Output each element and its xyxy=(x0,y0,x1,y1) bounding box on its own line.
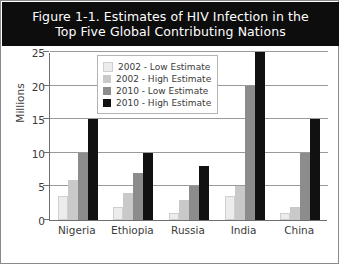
y-axis-tick-label: 25 xyxy=(5,47,45,59)
y-axis-tick xyxy=(43,118,49,119)
bar xyxy=(179,200,189,220)
bar xyxy=(143,153,153,220)
x-axis-tick-label: Nigeria xyxy=(49,224,105,236)
bar xyxy=(68,180,78,220)
y-axis-tick-label: 10 xyxy=(5,148,45,160)
legend-label: 2010 - High Estimate xyxy=(116,98,211,108)
y-axis-tick xyxy=(43,85,49,86)
bar xyxy=(290,207,300,220)
x-axis-tick-label: China xyxy=(271,224,327,236)
bar-group xyxy=(280,52,320,220)
y-axis-tick-label: 5 xyxy=(5,181,45,193)
bar xyxy=(235,186,245,220)
x-axis-tick-label: Ethiopia xyxy=(105,224,161,236)
legend-label: 2010 - Low Estimate xyxy=(116,86,208,96)
bar xyxy=(113,207,123,220)
bar xyxy=(300,153,310,220)
x-axis-tick-label: India xyxy=(216,224,272,236)
legend-swatch xyxy=(103,75,111,83)
figure-container: Figure 1-1. Estimates of HIV Infection i… xyxy=(0,0,339,264)
bar xyxy=(225,196,235,220)
bar xyxy=(310,119,320,220)
bar xyxy=(245,86,255,220)
bar xyxy=(123,193,133,220)
page-title: Figure 1-1. Estimates of HIV Infection i… xyxy=(22,9,319,39)
legend-item: 2002 - High Estimate xyxy=(103,73,211,84)
bar xyxy=(78,153,88,220)
legend-swatch xyxy=(103,62,113,72)
y-axis-tick xyxy=(43,185,49,186)
legend-swatch xyxy=(103,99,111,107)
legend-item: 2010 - High Estimate xyxy=(103,97,211,108)
bar xyxy=(169,213,179,220)
bar xyxy=(88,119,98,220)
y-axis-title: Millions xyxy=(14,63,26,143)
bar xyxy=(133,173,143,220)
y-axis-tick xyxy=(43,219,49,220)
bar xyxy=(255,52,265,220)
bar-group xyxy=(58,52,98,220)
legend-item: 2010 - Low Estimate xyxy=(103,85,211,96)
bar xyxy=(199,166,209,220)
x-axis-labels: NigeriaEthiopiaRussiaIndiaChina xyxy=(49,224,327,242)
legend-swatch xyxy=(103,87,111,95)
chart-legend: 2002 - Low Estimate2002 - High Estimate2… xyxy=(97,55,218,114)
x-axis-tick-label: Russia xyxy=(160,224,216,236)
legend-label: 2002 - High Estimate xyxy=(116,74,211,84)
y-axis-tick xyxy=(43,152,49,153)
bar xyxy=(280,213,290,220)
legend-item: 2002 - Low Estimate xyxy=(103,61,211,72)
bar xyxy=(58,196,68,220)
legend-label: 2002 - Low Estimate xyxy=(118,62,210,72)
bar-group xyxy=(225,52,265,220)
y-axis-tick xyxy=(43,51,49,52)
bar xyxy=(189,186,199,220)
y-axis-tick-label: 0 xyxy=(5,215,45,227)
figure-title-banner: Figure 1-1. Estimates of HIV Infection i… xyxy=(2,2,339,46)
